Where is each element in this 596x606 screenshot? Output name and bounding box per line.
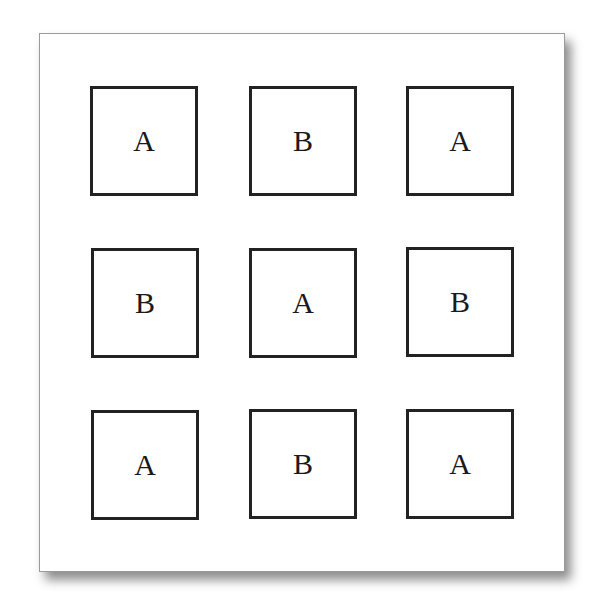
cell-label: A bbox=[449, 449, 471, 479]
grid-cell-r3c1: A bbox=[91, 410, 199, 520]
grid-cell-r2c1: B bbox=[91, 248, 199, 358]
cell-label: B bbox=[293, 449, 313, 479]
grid-cell-r2c2: A bbox=[249, 248, 357, 358]
grid-cell-r1c3: A bbox=[406, 86, 514, 196]
cell-label: B bbox=[450, 287, 470, 317]
grid-cell-r1c1: A bbox=[90, 86, 198, 196]
cell-label: B bbox=[135, 288, 155, 318]
figure-frame: A B A B A B A B A bbox=[39, 33, 565, 572]
cell-label: A bbox=[134, 450, 156, 480]
cell-label: B bbox=[293, 126, 313, 156]
cell-label: A bbox=[449, 126, 471, 156]
grid-cell-r3c2: B bbox=[249, 409, 357, 519]
grid-cell-r1c2: B bbox=[249, 86, 357, 196]
grid-cell-r3c3: A bbox=[406, 409, 514, 519]
cell-label: A bbox=[133, 126, 155, 156]
cell-label: A bbox=[292, 288, 314, 318]
grid-cell-r2c3: B bbox=[406, 247, 514, 357]
